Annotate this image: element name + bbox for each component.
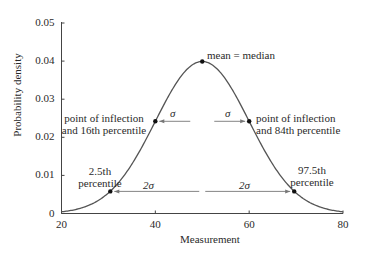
inflection-left-label: point of inflection and 16th percentile — [56, 112, 152, 136]
two-sigma-right-label: 2σ — [239, 179, 250, 191]
p97-5-line1: 97.5th — [284, 164, 340, 176]
p97-5-line2: percentile — [284, 176, 340, 188]
x-tick-label: 20 — [47, 218, 77, 230]
marked-point — [108, 189, 112, 193]
p2-5-line2: percentile — [72, 177, 128, 189]
p97-5-label: 97.5th percentile — [284, 164, 340, 188]
arrow-head-icon — [159, 119, 164, 123]
x-tick-label: 40 — [140, 218, 170, 230]
inflection-right-line1: point of inflection — [256, 112, 340, 124]
arrow-head-icon — [285, 189, 290, 193]
marked-point — [200, 59, 204, 63]
two-sigma-left-label: 2σ — [143, 179, 154, 191]
y-axis-label: Probability density — [11, 40, 23, 150]
sigma-left-label: σ — [170, 107, 175, 119]
inflection-right-line2: and 84th percentile — [256, 124, 340, 136]
y-tick-label: 0.01 — [15, 168, 55, 180]
p2-5-line1: 2.5th — [72, 165, 128, 177]
marked-point — [247, 119, 251, 123]
y-tick-label: 0.05 — [15, 16, 55, 28]
inflection-right-label: point of inflection and 84th percentile — [256, 112, 340, 136]
arrow-head-icon — [114, 189, 119, 193]
inflection-left-line1: point of inflection — [56, 112, 152, 124]
marked-point — [292, 189, 296, 193]
mean-label: mean = median — [207, 49, 275, 61]
x-axis-label: Measurement — [170, 233, 250, 245]
marked-point — [153, 119, 157, 123]
x-tick-label: 60 — [234, 218, 264, 230]
p2-5-label: 2.5th percentile — [72, 165, 128, 189]
x-tick-label: 80 — [328, 218, 358, 230]
inflection-left-line2: and 16th percentile — [56, 124, 152, 136]
sigma-right-label: σ — [225, 107, 230, 119]
density-curve — [62, 62, 344, 212]
arrow-head-icon — [240, 119, 245, 123]
